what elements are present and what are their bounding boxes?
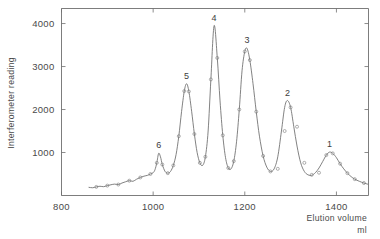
y-axis-title: Interferometer reading xyxy=(6,57,16,149)
y-tick-label: 2000 xyxy=(32,104,54,115)
plot-frame xyxy=(62,9,369,196)
data-point-marker xyxy=(303,161,306,164)
x-tick-label: 1200 xyxy=(234,201,256,212)
peak-label-2: 2 xyxy=(285,88,290,98)
peak-label-4: 4 xyxy=(212,13,217,23)
y-tick-label: 3000 xyxy=(32,61,54,72)
peak-label-6: 6 xyxy=(156,140,161,150)
x-tick-label: 1400 xyxy=(325,201,347,212)
x-axis-ticks xyxy=(62,9,337,196)
x-tick-label: 1000 xyxy=(142,201,164,212)
data-point-marker xyxy=(283,130,286,133)
y-axis-tick-labels: 1000200030004000 xyxy=(32,18,54,158)
x-axis-title: Elution volume xyxy=(306,213,367,223)
data-point-marker xyxy=(318,171,321,174)
y-axis-ticks xyxy=(62,24,369,153)
x-axis-unit-label: ml xyxy=(357,225,367,235)
x-tick-label: 800 xyxy=(53,201,70,212)
data-point-marker xyxy=(296,125,299,128)
chart-container: 800100012001400 1000200030004000 654321 … xyxy=(0,0,380,239)
elution-chromatogram-chart: 800100012001400 1000200030004000 654321 … xyxy=(0,0,380,239)
y-tick-label: 4000 xyxy=(32,18,54,29)
data-point-marker xyxy=(276,167,279,170)
y-tick-label: 1000 xyxy=(32,147,54,158)
peak-label-1: 1 xyxy=(327,139,332,149)
peak-label-5: 5 xyxy=(184,71,189,81)
data-trace-line xyxy=(89,25,368,187)
peak-label-3: 3 xyxy=(245,35,250,45)
data-series-group xyxy=(89,25,368,188)
data-point-markers xyxy=(95,50,366,188)
x-axis-tick-labels: 800100012001400 xyxy=(53,201,347,212)
peak-annotation-labels: 654321 xyxy=(156,13,332,150)
